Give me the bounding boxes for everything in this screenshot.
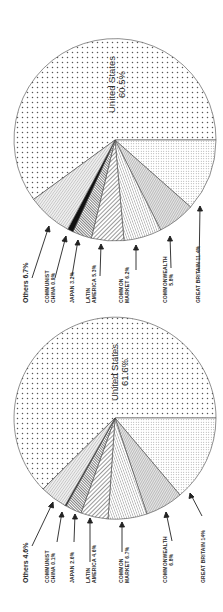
label-united-states-top: United States 60.5% — [107, 56, 127, 113]
label-others-top: Others 6.7% — [22, 263, 29, 303]
label-japan-bottom: JAPAN 2.6% — [69, 552, 75, 583]
pie-top-svg — [0, 0, 223, 306]
label-commonwealth-bottom: COMMONWEALTH 6.8% — [162, 536, 174, 583]
label-communist-china-top: COMMUNIST CHINA 0.9% — [44, 270, 56, 303]
label-great-britain-top: GREAT BRITAIN 11.4% — [195, 245, 201, 303]
label-common-market-bottom: COMMON MARKET 6.7% — [118, 547, 130, 583]
label-japan-top: JAPAN 3.2% — [69, 272, 75, 303]
label-great-britain-bottom: GREAT BRITAIN 14% — [200, 530, 206, 583]
label-latin-america-bottom: LATIN AMERICA 4.6% — [85, 545, 97, 583]
label-united-states-bottom: United States 61.6% — [110, 344, 130, 401]
label-latin-america-top: LATIN AMERICA 5.3% — [85, 265, 97, 303]
label-communist-china-bottom: COMMUNIST CHINA 0.1% — [44, 550, 56, 583]
label-common-market-top: COMMON MARKET 6.2% — [118, 267, 130, 303]
label-others-bottom: Others 4.6% — [22, 543, 29, 583]
label-commonwealth-top: COMMONWEALTH 5.8% — [162, 256, 174, 303]
pie-chart-top: United States 60.5% Others 6.7% COMMUNIS… — [0, 0, 223, 306]
pie-chart-bottom: United States 61.6% Others 4.6% COMMUNIS… — [0, 306, 223, 612]
